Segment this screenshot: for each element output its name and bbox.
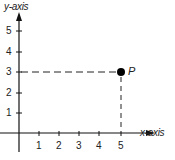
y-axis-arrow-icon (16, 12, 22, 21)
x-tick-label: 4 (96, 141, 102, 151)
y-tick-label: 1 (6, 108, 12, 118)
x-tick-label: 5 (118, 141, 124, 151)
y-axis-title: y-axis (4, 2, 28, 12)
x-axis-title: x-axis (140, 128, 164, 138)
y-tick-label: 5 (6, 26, 12, 36)
y-tick-label: 3 (6, 67, 12, 77)
x-tick-label: 1 (36, 141, 42, 151)
x-tick-label: 2 (56, 141, 62, 151)
data-point-p (117, 68, 125, 76)
x-tick-label: 3 (76, 141, 82, 151)
y-tick-label: 4 (6, 47, 12, 57)
point-label: P (128, 66, 135, 77)
y-tick-label: 2 (6, 88, 12, 98)
